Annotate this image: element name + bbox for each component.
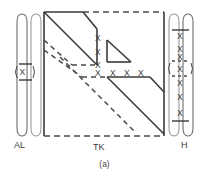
al-label: AL — [14, 141, 25, 150]
tk-row-x-4: X — [138, 69, 144, 78]
tk-upper-left-triangle — [44, 12, 97, 65]
h-entry-x-7: X — [177, 109, 183, 118]
matrix-structure-figure: X X X X X X X X X X X X X X X AL TK H (a… — [0, 0, 209, 177]
tk-lower-right-triangle — [107, 77, 164, 134]
h-label: H — [181, 141, 188, 150]
tk-row-x-1: X — [95, 69, 101, 78]
h-entry-x-5: X — [177, 79, 183, 88]
h-entry-x-1: X — [177, 32, 183, 41]
h-entry-x-6: X — [177, 93, 183, 102]
tk-column-x-1: X — [95, 34, 101, 43]
figure-caption: (a) — [0, 160, 209, 169]
tk-row-x-3: X — [124, 69, 130, 78]
tk-column-x-2: X — [95, 48, 101, 57]
al-entry-x: X — [20, 68, 26, 77]
h-entry-x-4: X — [177, 65, 183, 74]
tk-middle-triangle — [107, 40, 131, 62]
tk-label: TK — [93, 143, 105, 152]
tk-row-x-2: X — [110, 69, 116, 78]
h-entry-x-3: X — [177, 53, 183, 62]
